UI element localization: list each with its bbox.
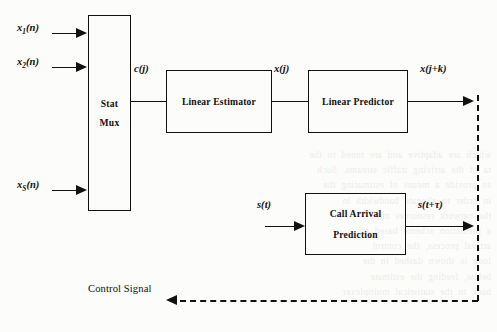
connector-predictor-output: [408, 101, 466, 102]
call-arrival-label-line1: Call Arrival: [330, 209, 382, 219]
block-call-arrival-prediction[interactable]: Call Arrival Prediction: [305, 193, 406, 255]
call-output-arrow: [463, 221, 474, 231]
input-line-x2: [52, 67, 78, 68]
ghost-line: below, feeding the estimate: [6, 270, 491, 285]
input-label-xs: xS(n): [17, 179, 39, 193]
stat-mux-label-line2: Mux: [100, 118, 120, 128]
predictor-output-arrow: [463, 96, 474, 106]
feedback-label-control-signal: Control Signal: [88, 283, 152, 294]
block-linear-estimator[interactable]: Linear Estimator: [166, 70, 272, 133]
connector-call-output: [406, 226, 466, 227]
signal-label-xj: x(j): [274, 63, 289, 74]
figure-canvas: which are adaptive and are tuned to the …: [0, 0, 497, 332]
signal-label-sttau: s(t+τ): [418, 199, 443, 210]
linear-estimator-label: Linear Estimator: [182, 96, 256, 107]
connector-mux-to-estimator: [131, 101, 166, 102]
ghost-line: back to the statistical multiplexer: [6, 285, 491, 300]
input-arrow-xs: [76, 185, 87, 195]
signal-label-cj: c(j): [134, 63, 149, 74]
connector-estimator-to-predictor: [272, 101, 308, 102]
input-line-xs: [52, 190, 78, 191]
feedback-arrow: [166, 295, 177, 305]
linear-predictor-label: Linear Predictor: [322, 96, 394, 107]
call-arrival-label-line2: Prediction: [333, 230, 377, 240]
input-line-x1: [52, 33, 78, 34]
signal-label-st: s(t): [257, 199, 271, 210]
stat-mux-label-line1: Stat: [101, 99, 118, 109]
call-input-arrow: [294, 221, 305, 231]
input-label-x2: x2(n): [17, 56, 39, 70]
background-bleed-text: which are adaptive and are tuned to the …: [0, 0, 497, 332]
ghost-line: which are adaptive and are tuned to the: [6, 148, 491, 163]
input-label-x1: x1(n): [17, 22, 39, 36]
signal-label-xjk: x(j+k): [420, 63, 447, 74]
ghost-line: arrival process, the control: [6, 239, 491, 254]
connector-call-input: [265, 226, 295, 227]
block-stat-mux[interactable]: Stat Mux: [88, 15, 131, 211]
feedback-bus-horizontal: [180, 300, 478, 302]
feedback-bus-vertical: [477, 95, 479, 301]
ghost-line: the network resources more: [6, 209, 491, 224]
block-linear-predictor[interactable]: Linear Predictor: [308, 70, 408, 133]
ghost-line: loop is shown dashed in the: [6, 254, 491, 269]
ghost-line: ta of the arriving traffic streams. Such: [6, 163, 491, 178]
input-arrow-x2: [76, 62, 87, 72]
input-arrow-x1: [76, 28, 87, 38]
